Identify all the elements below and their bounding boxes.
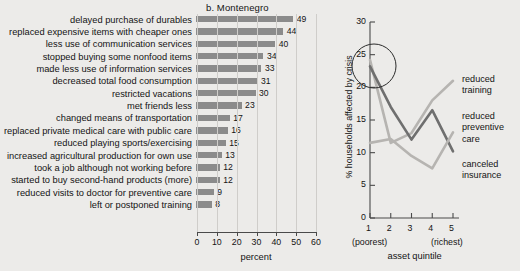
legend-reduced-preventive-care: reduced preventive care [462, 111, 504, 145]
bar-x-tick-label: 30 [252, 237, 262, 247]
figure-root: b. Montenegro delayed purchase of durabl… [0, 0, 520, 271]
bar-row: started to buy second-hand products (mor… [0, 175, 330, 186]
legend-line-1a: reduced [462, 74, 495, 85]
bar-gridline [316, 14, 317, 232]
bar-row: left or postponed training8 [0, 199, 330, 210]
bar-gridline [237, 14, 238, 232]
bar-x-tick-label: 40 [271, 237, 281, 247]
line-x-tick-label: 1 [366, 223, 371, 233]
bar-row: reduced visits to doctor for preventive … [0, 187, 330, 198]
bar-row: took a job although not working before12 [0, 162, 330, 173]
bar-value-label: 30 [259, 88, 269, 99]
legend-reduced-training: reduced training [462, 74, 495, 97]
bar-gridline [276, 14, 277, 232]
line-y-tick-label: 5 [344, 179, 366, 189]
bar [196, 53, 263, 59]
bar-x-tick [276, 232, 277, 236]
bar-row: restricted vacations30 [0, 88, 330, 99]
bar [196, 78, 257, 84]
bar-category-label: increased agricultural production for ow… [0, 151, 196, 161]
legend-line-2b: preventive [462, 122, 504, 133]
bar-category-label: left or postponed training [0, 200, 196, 210]
legend-line-2c: care [462, 134, 504, 145]
bar-category-label: replaced private medical care with publi… [0, 126, 196, 136]
bar-x-tick-label: 20 [232, 237, 242, 247]
bar-value-label: 31 [261, 76, 271, 87]
line-y-tick-label: 30 [344, 16, 366, 26]
bar-category-label: reduced playing sports/exercising [0, 138, 196, 148]
bar [196, 189, 214, 195]
panel-title: b. Montenegro [206, 2, 269, 13]
bar-gridline [197, 14, 198, 232]
line-y-tick-label: 10 [344, 147, 366, 157]
bar-row: stopped buying some nonfood items34 [0, 51, 330, 62]
bar-x-tick [237, 232, 238, 236]
bar-row: replaced expensive items with cheaper on… [0, 26, 330, 37]
bar-value-label: 13 [225, 150, 235, 161]
legend-line-3a: canceled [462, 159, 501, 170]
x-extreme-richest: (richest) [431, 237, 463, 247]
bar-category-label: changed means of transportation [0, 113, 196, 123]
bar-category-label: met friends less [0, 101, 196, 111]
bar-row: reduced playing sports/exercising15 [0, 138, 330, 149]
bar-category-label: replaced expensive items with cheaper on… [0, 27, 196, 37]
bar-x-tick-label: 10 [212, 237, 222, 247]
line-y-tick-label: 25 [344, 49, 366, 59]
bar-category-label: less use of communication services [0, 39, 196, 49]
bar-category-label: started to buy second-hand products (mor… [0, 175, 196, 185]
bar-row: delayed purchase of durables49 [0, 14, 330, 25]
bar-row: met friends less23 [0, 100, 330, 111]
line-x-tick-label: 4 [428, 223, 433, 233]
line-axes [370, 22, 459, 218]
bar-row: decreased total food consumption31 [0, 76, 330, 87]
bar-x-tick-label: 50 [291, 237, 301, 247]
bar [196, 201, 212, 207]
bar [196, 41, 275, 47]
bar-value-label: 40 [279, 39, 289, 50]
bar-x-tick [316, 232, 317, 236]
bar-value-label: 34 [267, 51, 277, 62]
bar-x-tick-label: 0 [195, 237, 200, 247]
bar-category-label: stopped buying some nonfood items [0, 52, 196, 62]
bar-x-tick [257, 232, 258, 236]
bar-x-tick-label: 60 [311, 237, 321, 247]
bar-category-label: made less use of information services [0, 64, 196, 74]
bar [196, 140, 226, 146]
bar-row: replaced private medical care with publi… [0, 125, 330, 136]
bar-row: less use of communication services40 [0, 39, 330, 50]
bar-row: made less use of information services33 [0, 63, 330, 74]
bar-value-label: 12 [223, 162, 233, 173]
bar [196, 90, 256, 96]
x-extreme-poorest: (poorest) [352, 237, 387, 247]
line-x-tick-label: 2 [387, 223, 392, 233]
legend-line-3b: insurance [462, 170, 501, 181]
bar-chart: delayed purchase of durables49replaced e… [0, 14, 330, 259]
series-line [370, 60, 453, 143]
bar-x-tick [296, 232, 297, 236]
bar-x-tick [217, 232, 218, 236]
bar-value-label: 44 [287, 26, 297, 37]
bar-value-label: 23 [245, 100, 255, 111]
bar [196, 16, 293, 22]
bar-gridline [217, 14, 218, 232]
bar-category-label: reduced visits to doctor for preventive … [0, 188, 196, 198]
bar-value-label: 17 [233, 113, 243, 124]
bar-category-label: took a job although not working before [0, 163, 196, 173]
legend-canceled-insurance: canceled insurance [462, 159, 501, 182]
bar-row: changed means of transportation17 [0, 113, 330, 124]
bar-value-label: 12 [223, 175, 233, 186]
line-chart: % households affected by crisis 05101520… [334, 0, 520, 271]
line-x-tick-label: 5 [449, 223, 454, 233]
bar-value-label: 9 [217, 187, 222, 198]
bar [196, 115, 230, 121]
bar-category-label: delayed purchase of durables [0, 15, 196, 25]
bar-gridline [257, 14, 258, 232]
bar-x-tick [197, 232, 198, 236]
bar [196, 152, 222, 158]
bar-gridline [296, 14, 297, 232]
line-y-tick-label: 15 [344, 114, 366, 124]
line-y-tick-label: 0 [344, 212, 366, 222]
bar-row: increased agricultural production for ow… [0, 150, 330, 161]
bar [196, 102, 242, 108]
line-x-axis-label: asset quintile [388, 251, 442, 261]
